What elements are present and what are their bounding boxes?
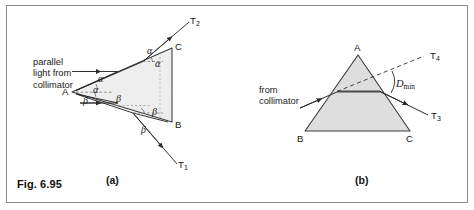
deviation-angle-label: Dmin	[396, 78, 415, 89]
angle-beta-2: β	[116, 93, 121, 104]
ray-t3-letter: T	[431, 110, 437, 121]
ray-label-t3: T3	[431, 110, 441, 121]
angle-alpha-2: α	[93, 84, 98, 95]
angle-alpha-3: α	[147, 45, 152, 56]
vertex-label-c-panel-b: C	[406, 133, 413, 144]
ray-t1-letter: T	[178, 159, 184, 170]
panel-b-caption: (b)	[355, 174, 368, 186]
collimator-b-line-2: collimator	[259, 96, 299, 107]
angle-alpha-4: α	[155, 58, 160, 69]
figure-panel: parallel light from collimator A C B T2 …	[0, 0, 474, 210]
deviation-letter: D	[396, 78, 404, 89]
ray-label-t1: T1	[178, 159, 188, 170]
vertex-label-a-panel-a: A	[62, 86, 68, 97]
angle-beta-3: β	[152, 106, 157, 117]
incident-ray-b-arrow	[300, 99, 322, 109]
angle-alpha-1: α	[98, 73, 103, 84]
ray-label-t4: T4	[430, 50, 440, 61]
figure-vector-layer	[0, 0, 474, 210]
deviation-subscript: min	[404, 83, 415, 91]
vertex-label-c-panel-a: C	[175, 41, 182, 52]
ray-label-t2: T2	[190, 15, 200, 26]
panel-a-group	[72, 22, 189, 164]
ray-t2-subscript: 2	[196, 20, 200, 27]
ray-t2-letter: T	[190, 15, 196, 26]
angle-beta-1: β	[83, 95, 88, 106]
vertex-label-b-panel-a: B	[175, 119, 181, 130]
collimator-line-2: light from	[33, 68, 73, 79]
collimator-caption-b: from collimator	[259, 85, 299, 108]
ray-t4-subscript: 4	[436, 55, 440, 62]
angle-beta-4: β	[141, 124, 146, 135]
collimator-line-1: parallel	[33, 57, 73, 68]
deviation-angle-arc-b	[391, 71, 394, 93]
panel-a-caption: (a)	[106, 174, 119, 186]
vertex-label-a-panel-b: A	[354, 42, 360, 53]
prism-b-body	[305, 55, 410, 131]
ray-t4-letter: T	[430, 50, 436, 61]
figure-number: Fig. 6.95	[17, 178, 62, 190]
collimator-b-line-1: from	[259, 85, 299, 96]
panel-b-group	[300, 55, 428, 131]
ray-t3-subscript: 3	[437, 115, 441, 122]
vertex-label-b-panel-b: B	[297, 133, 303, 144]
ray-t1-subscript: 1	[184, 164, 188, 171]
